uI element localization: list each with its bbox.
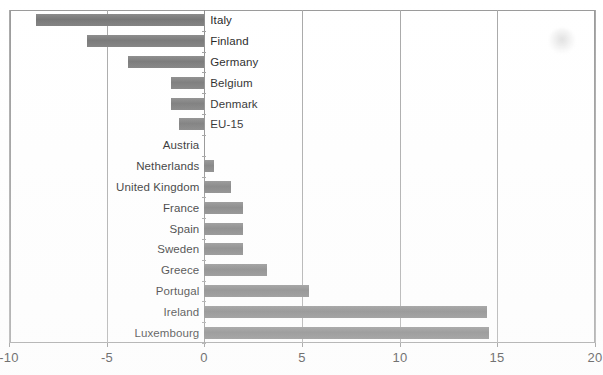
bar-chart: ItalyFinlandGermanyBelgiumDenmarkEU-15Au… [0,0,603,375]
x-tick-10 [400,343,401,347]
category-label-france: France [163,202,199,214]
category-tick-italy [202,31,206,32]
category-tick-eu-15 [202,135,206,136]
bar-italy [36,14,204,26]
gridline--5 [107,10,108,343]
bar-spain [204,223,243,235]
category-label-united-kingdom: United Kingdom [116,181,199,193]
category-label-belgium: Belgium [210,77,252,89]
category-label-greece: Greece [161,264,199,276]
x-tick-5 [302,343,303,347]
category-label-eu-15: EU-15 [210,118,243,130]
bar-ireland [204,306,487,318]
gridline-20 [595,10,596,343]
gridline-15 [497,10,498,343]
x-tick-label-20: 20 [588,350,603,365]
category-label-finland: Finland [210,35,248,47]
category-label-netherlands: Netherlands [136,160,199,172]
bar-luxembourg [204,327,489,339]
bar-finland [87,35,204,47]
x-tick--10 [9,343,10,347]
category-label-austria: Austria [163,139,200,151]
category-label-luxembourg: Luxembourg [134,327,199,339]
category-tick-united-kingdom [202,197,206,198]
category-label-sweden: Sweden [157,243,199,255]
category-tick-belgium [202,93,206,94]
category-tick-netherlands [202,177,206,178]
bar-eu-15 [179,118,204,130]
scan-smudge-artifact [548,28,576,54]
bar-united-kingdom [204,181,231,193]
x-tick-label-10: 10 [393,350,408,365]
category-label-italy: Italy [210,14,232,26]
category-tick-luxembourg [202,343,206,344]
category-tick-finland [202,52,206,53]
category-tick-germany [202,72,206,73]
category-label-denmark: Denmark [210,98,257,110]
bar-netherlands [204,160,214,172]
category-tick-portugal [202,301,206,302]
category-tick-greece [202,281,206,282]
category-tick-ireland [202,322,206,323]
x-tick--5 [107,343,108,347]
bar-sweden [204,243,243,255]
bar-portugal [204,285,309,297]
category-label-portugal: Portugal [156,285,200,297]
bar-france [204,202,243,214]
x-tick-20 [595,343,596,347]
x-tick-15 [497,343,498,347]
category-tick-sweden [202,260,206,261]
bar-belgium [171,77,204,89]
bar-greece [204,264,267,276]
x-tick-label-5: 5 [298,350,305,365]
bar-germany [128,56,204,68]
category-tick-denmark [202,114,206,115]
x-tick-label--10: -10 [0,350,19,365]
bar-denmark [171,98,204,110]
x-tick-label--5: -5 [101,350,113,365]
category-tick-austria [202,156,206,157]
category-label-ireland: Ireland [163,306,199,318]
x-tick-label-0: 0 [200,350,207,365]
x-tick-label-15: 15 [490,350,505,365]
category-label-germany: Germany [210,56,258,68]
gridline--10 [9,10,10,343]
category-tick-spain [202,239,206,240]
category-label-spain: Spain [169,223,199,235]
gridline-10 [400,10,401,343]
category-tick-france [202,218,206,219]
